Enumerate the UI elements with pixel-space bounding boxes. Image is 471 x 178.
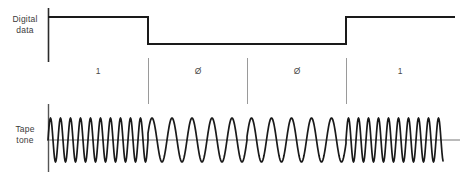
bit-label: 1 [83,66,113,77]
fsk-encoding-figure: Digital data Tape tone 1ØØ1 [0,0,471,178]
bit-label: 1 [385,66,415,77]
waveform-plot [0,0,471,178]
bit-label: Ø [282,66,312,77]
tape-axis [48,104,460,172]
bit-divider-group [149,58,347,104]
digital-data-trace [48,17,455,44]
bit-label: Ø [183,66,213,77]
